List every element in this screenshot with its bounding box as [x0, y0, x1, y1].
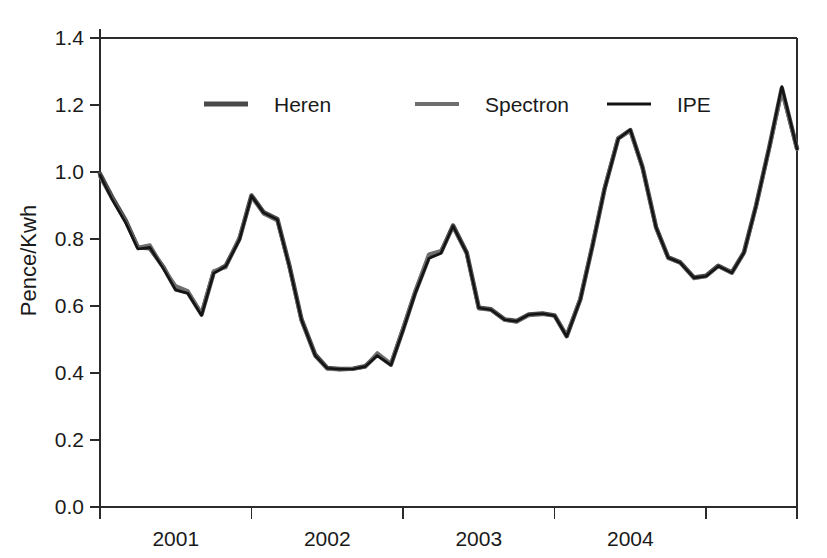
y-tick-label: 0.2 — [55, 428, 84, 451]
x-tick-label: 2002 — [304, 527, 351, 550]
y-axis-title: Pence/Kwh — [16, 205, 41, 316]
x-tick-label: 2004 — [607, 527, 654, 550]
y-tick-label: 1.4 — [55, 26, 85, 49]
legend-label-spectron: Spectron — [485, 93, 569, 116]
y-tick-label: 0.8 — [55, 227, 84, 250]
x-tick-label: 2001 — [152, 527, 199, 550]
data-series-group — [100, 87, 797, 370]
y-tick-label: 1.0 — [55, 160, 84, 183]
legend-label-heren: Heren — [274, 93, 331, 116]
y-tick-label: 0.6 — [55, 294, 84, 317]
x-tick-label: 2003 — [455, 527, 502, 550]
y-tick-label: 0.0 — [55, 495, 84, 518]
y-tick-label: 1.2 — [55, 93, 84, 116]
y-tick-label: 0.4 — [55, 361, 85, 384]
chart-figure: HerenSpectronIPE 0.00.20.40.60.81.01.21.… — [0, 0, 827, 558]
series-line-heren — [100, 88, 797, 369]
line-chart: HerenSpectronIPE 0.00.20.40.60.81.01.21.… — [0, 0, 827, 558]
chart-legend: HerenSpectronIPE — [204, 93, 711, 116]
series-line-ipe — [100, 87, 797, 370]
legend-label-ipe: IPE — [677, 93, 711, 116]
